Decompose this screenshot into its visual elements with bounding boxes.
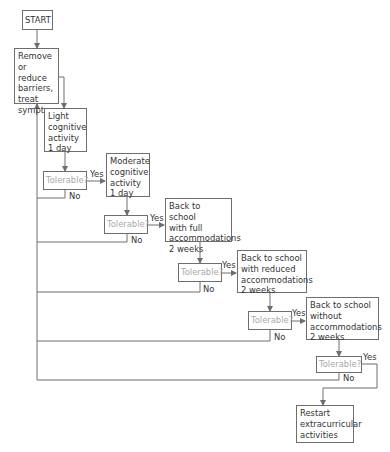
tolerable-decision-4: Tolerable? [248,311,292,330]
tolerable-decision-2: Tolerable? [104,215,148,234]
back-to-school-without-accommodations-node: Back to school without accommodations 2 … [306,297,379,340]
start-node: START [22,10,53,30]
flowchart: START Remove or reduce barriers, treat s… [0,0,390,452]
no-label-5: No [343,373,354,383]
tolerable-decision-3: Tolerable? [178,263,222,282]
yes-label-3: Yes [222,260,236,270]
remove-barriers-node: Remove or reduce barriers, treat symptom… [14,48,59,104]
restart-extracurricular-node: Restart extracurricular activities [296,405,354,443]
back-to-school-full-accommodations-node: Back to school with full accommodations … [165,198,232,242]
tolerable-decision-5: Tolerable? [316,356,362,373]
yes-label-2: Yes [150,213,164,223]
no-label-1: No [69,191,80,201]
tolerable-decision-1: Tolerable? [43,171,87,190]
no-label-4: No [274,332,285,342]
no-label-3: No [203,284,214,294]
yes-label-1: Yes [90,169,104,179]
yes-label-4: Yes [292,308,306,318]
no-label-2: No [131,235,142,245]
moderate-cognitive-activity-node: Moderate cognitive activity 1 day [106,153,150,197]
back-to-school-reduced-accommodations-node: Back to school with reduced accommodatio… [237,250,307,293]
light-cognitive-activity-node: Light cognitive activity 1 day [44,108,87,152]
yes-label-5: Yes [363,352,377,362]
